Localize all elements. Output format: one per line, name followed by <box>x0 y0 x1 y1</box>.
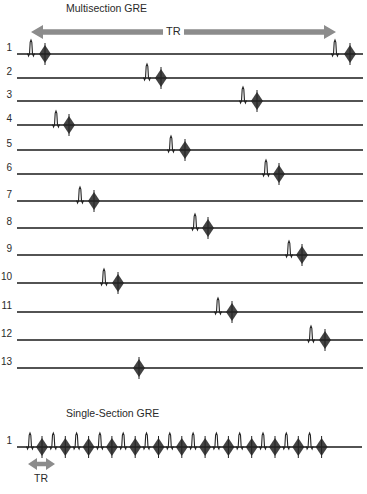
row-label: 3 <box>0 89 12 100</box>
row-label: 5 <box>0 138 12 149</box>
row-label: 1 <box>0 42 12 53</box>
row-label: 13 <box>0 356 12 367</box>
row-label: 10 <box>0 271 12 282</box>
pulse-sequence-diagram <box>0 0 367 494</box>
row-label: 4 <box>0 113 12 124</box>
single-section-title: Single-Section GRE <box>66 407 159 419</box>
multisection-title: Multisection GRE <box>66 2 147 14</box>
row-label: 11 <box>0 300 12 311</box>
row-label: 9 <box>0 243 12 254</box>
row-label: 2 <box>0 66 12 77</box>
single-section-tr-label: TR <box>34 472 48 484</box>
row-label: 8 <box>0 216 12 227</box>
row-label: 6 <box>0 162 12 173</box>
tr-double-arrow-icon <box>28 458 55 470</box>
row-label: 1 <box>0 435 12 446</box>
row-label: 7 <box>0 189 12 200</box>
row-label: 12 <box>0 328 12 339</box>
multisection-tr-label: TR <box>163 25 184 37</box>
